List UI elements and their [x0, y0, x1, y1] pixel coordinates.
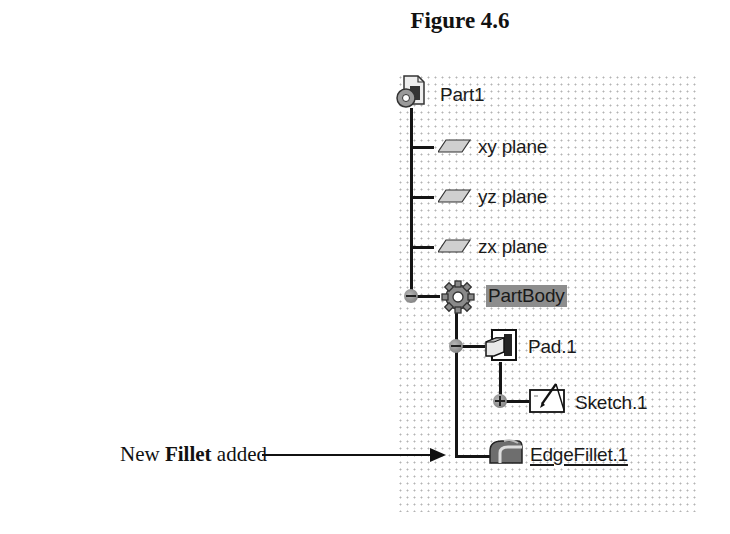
tree-connector-root — [410, 108, 413, 298]
expand-toggle-sketch[interactable] — [493, 394, 507, 408]
annotation-label: New Fillet added — [120, 442, 267, 467]
tree-item-part1[interactable]: Part1 — [440, 84, 484, 106]
figure-title: Figure 4.6 — [0, 8, 730, 34]
tree-branch-yz — [410, 196, 434, 199]
tree-item-edgefillet[interactable]: EdgeFillet.1 — [530, 444, 628, 466]
sketch-icon[interactable] — [528, 382, 568, 414]
plane-icon[interactable] — [438, 188, 472, 204]
tree-item-xy-plane[interactable]: xy plane — [478, 136, 547, 158]
tree-item-sketch[interactable]: Sketch.1 — [575, 392, 647, 414]
tree-branch-edgefillet — [455, 455, 491, 458]
annotation-arrow-line — [262, 454, 432, 456]
annotation-suffix: added — [212, 442, 267, 466]
collapse-toggle-pad[interactable] — [449, 339, 463, 353]
plane-icon[interactable] — [438, 138, 472, 154]
annotation-arrow-head-icon — [430, 448, 446, 462]
annotation-prefix: New — [120, 442, 165, 466]
body-gear-icon[interactable] — [440, 280, 476, 314]
tree-item-zx-plane[interactable]: zx plane — [478, 236, 547, 258]
part-document-icon[interactable] — [394, 74, 428, 112]
collapse-toggle-partbody[interactable] — [404, 289, 418, 303]
plane-icon[interactable] — [438, 238, 472, 254]
tree-item-yz-plane[interactable]: yz plane — [478, 186, 547, 208]
tree-connector-partbody — [455, 310, 458, 458]
edge-fillet-icon[interactable] — [488, 437, 524, 467]
tree-branch-xy — [410, 146, 434, 149]
tree-branch-zx — [410, 246, 434, 249]
tree-item-partbody[interactable]: PartBody — [486, 285, 567, 307]
tree-item-pad[interactable]: Pad.1 — [528, 336, 577, 358]
annotation-bold: Fillet — [165, 442, 212, 466]
pad-icon[interactable] — [482, 328, 518, 364]
